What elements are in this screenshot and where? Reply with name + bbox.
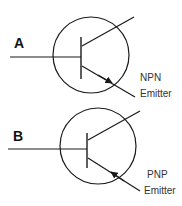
npn-type-caption: NPN <box>140 72 161 83</box>
pnp-type-caption: PNP <box>147 169 168 180</box>
npn-transistor-symbol: A NPN Emitter <box>10 17 172 99</box>
npn-emitter-caption: Emitter <box>140 88 172 99</box>
pnp-transistor-symbol: B PNP Emitter <box>8 108 176 196</box>
transistor-diagram: A NPN Emitter B PNP Emitter <box>0 0 182 206</box>
npn-label-letter: A <box>14 35 24 51</box>
pnp-emitter-arrow-icon <box>111 172 124 181</box>
npn-emitter-arrow-icon <box>98 75 112 83</box>
pnp-label-letter: B <box>13 128 23 144</box>
npn-envelope-circle <box>53 17 129 93</box>
pnp-collector-lead <box>88 111 140 140</box>
pnp-emitter-caption: Emitter <box>144 185 176 196</box>
